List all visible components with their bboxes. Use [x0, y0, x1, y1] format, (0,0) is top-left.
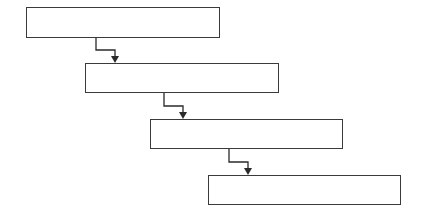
connectors-layer	[0, 0, 421, 217]
arrowhead-icon	[111, 56, 119, 63]
connector-2-to-3	[164, 93, 183, 113]
connector-1-to-2	[96, 38, 115, 57]
arrowhead-icon	[179, 112, 187, 119]
connector-3-to-4	[229, 149, 248, 169]
arrowhead-icon	[244, 168, 252, 175]
